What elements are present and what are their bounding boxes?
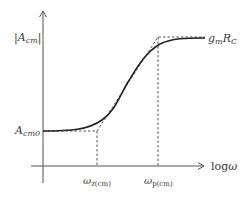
y-axis-label: |Acm| bbox=[14, 31, 41, 45]
low-frequency-gain-label: Acm0 bbox=[14, 124, 40, 138]
x-axis-label: logω bbox=[211, 160, 237, 173]
magnitude-response-curve bbox=[43, 38, 205, 131]
bode-plot-diagram: |Acm| Acm0 gmRC logω ωz(cm) ωp(cm) bbox=[0, 0, 247, 198]
pole-frequency-label: ωp(cm) bbox=[144, 175, 173, 188]
asymptote-dashed-line bbox=[43, 37, 205, 131]
zero-frequency-label: ωz(cm) bbox=[83, 175, 111, 188]
high-frequency-gain-label: gmRC bbox=[208, 32, 237, 46]
